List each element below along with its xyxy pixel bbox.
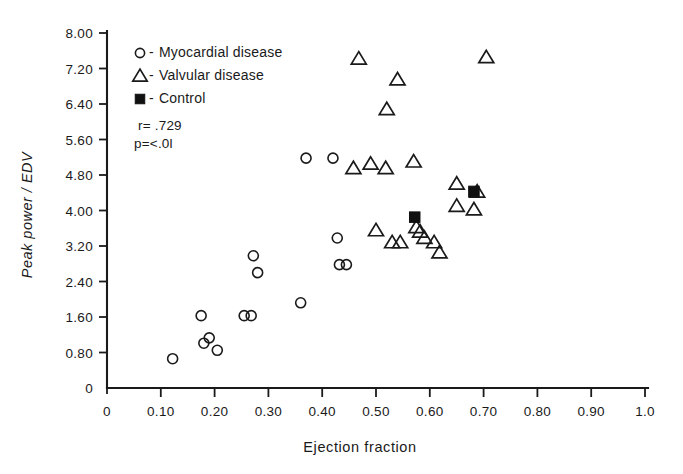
marker-open-circle: [253, 268, 263, 278]
x-tick-label: 0.70: [470, 404, 497, 419]
legend-open-triangle-icon: [133, 69, 147, 81]
marker-open-circle: [196, 311, 206, 321]
marker-open-triangle: [479, 50, 494, 62]
x-tick-label: 0.90: [577, 404, 604, 419]
x-tick-label: 0.60: [416, 404, 443, 419]
marker-open-circle: [296, 298, 306, 308]
marker-open-triangle: [449, 199, 464, 211]
x-tick-label: 0.80: [524, 404, 551, 419]
y-tick-label: 4.00: [66, 204, 93, 219]
series-valvular-disease: [346, 50, 494, 258]
marker-open-triangle: [369, 223, 384, 235]
y-tick-label: 6.40: [66, 97, 93, 112]
x-tick-label: 0.40: [308, 404, 335, 419]
legend: -Myocardial disease-Valvular disease-Con…: [133, 44, 283, 106]
legend-item-myocardial-disease: -Myocardial disease: [135, 44, 282, 60]
x-tick-label: 0.50: [362, 404, 389, 419]
marker-open-circle: [301, 153, 311, 163]
marker-open-triangle: [378, 161, 393, 173]
marker-open-circle: [168, 354, 178, 364]
legend-dash: -: [149, 90, 154, 106]
y-axis-title: Peak power / EDV: [19, 151, 35, 278]
x-tick-label: 0.10: [147, 404, 174, 419]
marker-open-triangle: [390, 72, 405, 84]
data-markers-group: [168, 50, 494, 363]
x-tick-label: 0.30: [255, 404, 282, 419]
marker-open-triangle: [363, 157, 378, 169]
legend-item-label: Valvular disease: [159, 67, 264, 83]
y-tick-label: 8.00: [66, 26, 93, 41]
plot-canvas: 00.801.602.403.204.004.805.606.407.208.0…: [0, 0, 683, 474]
y-tick-label: 7.20: [66, 62, 93, 77]
axes-group: [107, 31, 648, 388]
series-control: [409, 186, 479, 222]
legend-item-control: -Control: [135, 90, 205, 106]
pvalue-label: p=<.0l: [134, 136, 173, 151]
legend-dash: -: [149, 44, 154, 60]
x-tick-label: 1.0: [635, 404, 655, 419]
marker-open-triangle: [466, 202, 481, 214]
marker-open-triangle: [379, 102, 394, 114]
series-myocardial-disease: [168, 153, 352, 364]
marker-open-circle: [328, 153, 338, 163]
legend-item-label: Control: [159, 90, 206, 106]
x-tick-label: 0: [103, 404, 111, 419]
legend-item-label: Myocardial disease: [159, 44, 282, 60]
marker-open-triangle: [449, 177, 464, 189]
marker-open-circle: [246, 311, 256, 321]
legend-item-valvular-disease: -Valvular disease: [133, 67, 264, 83]
y-tick-label: 2.40: [66, 275, 93, 290]
y-tick-label: 5.60: [66, 133, 93, 148]
legend-open-circle-icon: [135, 48, 144, 57]
x-tick-label: 0.20: [201, 404, 228, 419]
y-tick-label: 1.60: [66, 310, 93, 325]
marker-open-circle: [212, 345, 222, 355]
marker-open-circle: [332, 233, 342, 243]
marker-open-triangle: [406, 155, 421, 167]
y-axis-ticks: 00.801.602.403.204.004.805.606.407.208.0…: [66, 26, 107, 396]
scatter-plot-figure: 00.801.602.403.204.004.805.606.407.208.0…: [0, 0, 683, 474]
legend-filled-square-icon: [135, 94, 145, 104]
marker-filled-square: [409, 212, 420, 223]
y-tick-label: 0: [85, 381, 93, 396]
y-tick-label: 4.80: [66, 168, 93, 183]
marker-filled-square: [469, 186, 480, 197]
marker-open-circle: [248, 251, 258, 261]
statistics-annotation: r= .729 p=<.0l: [134, 118, 182, 151]
legend-dash: -: [149, 67, 154, 83]
marker-open-circle: [341, 260, 351, 270]
correlation-label: r= .729: [138, 118, 182, 133]
x-axis-title: Ejection fraction: [303, 439, 416, 455]
y-tick-label: 0.80: [66, 346, 93, 361]
marker-open-triangle: [351, 52, 366, 64]
marker-open-triangle: [346, 161, 361, 173]
y-tick-label: 3.20: [66, 239, 93, 254]
